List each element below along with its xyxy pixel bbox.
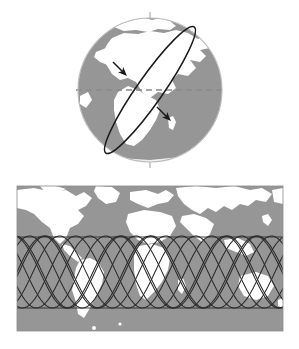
land-island-a	[92, 326, 96, 330]
land-island-b	[118, 322, 121, 325]
orbit-ground-track-figure	[0, 0, 299, 349]
map-panel	[13, 186, 287, 331]
figure-canvas	[0, 0, 299, 349]
